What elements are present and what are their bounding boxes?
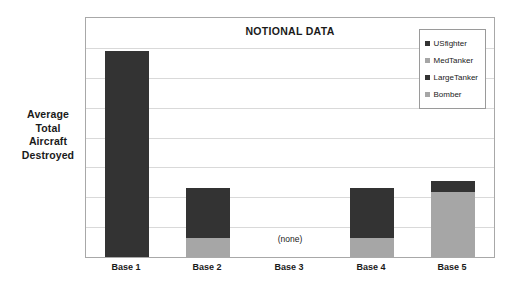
bar-segment-usfighter[interactable] — [350, 188, 394, 238]
bar-base-5[interactable] — [431, 181, 475, 257]
chart-container: Average Total Aircraft Destroyed NOTIONA… — [0, 0, 515, 286]
bar-base-2[interactable] — [186, 188, 230, 257]
x-axis-labels: Base 1Base 2Base 3Base 4Base 5 — [85, 262, 495, 280]
bar-segment-usfighter[interactable] — [431, 181, 475, 193]
x-tick-base-1: Base 1 — [85, 262, 167, 272]
x-tick-base-3: Base 3 — [248, 262, 330, 272]
bar-series-group: (none) — [86, 18, 494, 257]
bar-segment-bomber[interactable] — [186, 238, 230, 257]
bar-base-4[interactable] — [350, 188, 394, 257]
y-axis-label-line-2: Total — [12, 122, 84, 136]
bar-base-1[interactable] — [105, 51, 149, 257]
y-axis-label: Average Total Aircraft Destroyed — [12, 108, 84, 162]
no-data-annotation: (none) — [250, 234, 330, 244]
x-tick-base-5: Base 5 — [411, 262, 493, 272]
bar-segment-usfighter[interactable] — [186, 188, 230, 238]
y-axis-label-line-3: Aircraft — [12, 135, 84, 149]
plot-area: NOTIONAL DATA USfighter MedTanker LargeT… — [85, 17, 495, 258]
bar-segment-usfighter[interactable] — [105, 51, 149, 257]
bar-segment-bomber[interactable] — [431, 192, 475, 257]
x-tick-base-2: Base 2 — [166, 262, 248, 272]
bar-segment-bomber[interactable] — [350, 238, 394, 257]
y-axis-label-line-1: Average — [12, 108, 84, 122]
y-axis-label-line-4: Destroyed — [12, 149, 84, 163]
x-tick-base-4: Base 4 — [330, 262, 412, 272]
